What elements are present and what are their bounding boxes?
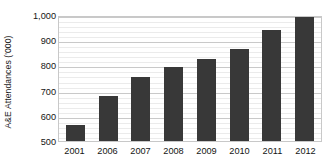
x-axis-tick-label: 2008: [157, 144, 190, 160]
bar-2012[interactable]: [295, 16, 314, 141]
y-axis-title: A&E Attendances ('000): [0, 0, 16, 164]
bar-slot: [157, 17, 190, 141]
bar-2007[interactable]: [131, 77, 150, 141]
x-axis-tick-label: 2007: [124, 144, 157, 160]
bar-2009[interactable]: [197, 59, 216, 141]
bar-slot: [190, 17, 223, 141]
y-axis-tick-label: 800: [16, 61, 56, 71]
bar-slot: [92, 17, 125, 141]
bar-slot: [256, 17, 289, 141]
bar-2008[interactable]: [164, 67, 183, 141]
bar-slot: [288, 17, 321, 141]
x-axis-tick-label: 2009: [190, 144, 223, 160]
bar-slot: [59, 17, 92, 141]
x-axis-tick-label: 2011: [256, 144, 289, 160]
bar-2010[interactable]: [230, 49, 249, 141]
bar-slot: [125, 17, 158, 141]
y-axis-tick-label: 900: [16, 36, 56, 46]
y-axis-tick-label: 1,000: [16, 11, 56, 21]
y-axis-tick-label: 500: [16, 137, 56, 147]
x-axis-tick-label: 2001: [58, 144, 91, 160]
x-axis-tick-label: 2010: [223, 144, 256, 160]
x-axis-tick-label: 2006: [91, 144, 124, 160]
bar-2001[interactable]: [66, 125, 85, 141]
plot-area: [58, 16, 322, 142]
bar-2006[interactable]: [99, 96, 118, 141]
y-axis-tick-label: 600: [16, 112, 56, 122]
y-axis-tick-labels: 5006007008009001,000: [16, 0, 56, 164]
bars-container: [59, 17, 321, 141]
bar-chart: A&E Attendances ('000) 5006007008009001,…: [0, 0, 329, 164]
bar-slot: [223, 17, 256, 141]
x-axis-tick-label: 2012: [289, 144, 322, 160]
y-axis-tick-label: 700: [16, 87, 56, 97]
x-axis-tick-labels: 20012006200720082009201020112012: [58, 144, 322, 160]
bar-2011[interactable]: [262, 30, 281, 141]
